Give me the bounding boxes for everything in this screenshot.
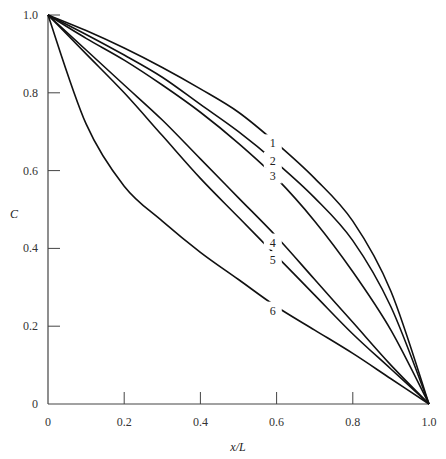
axes: 00.20.40.60.81.000.20.40.60.81.0 (23, 8, 437, 429)
y-tick-label: 1.0 (23, 8, 38, 22)
x-tick-label: 0.6 (269, 415, 284, 429)
y-tick-label: 0.4 (23, 241, 38, 255)
y-tick-label: 0 (32, 397, 38, 411)
curve-label-2: 2 (270, 154, 276, 168)
x-tick-label: 0.2 (117, 415, 132, 429)
x-tick-label: 0.4 (193, 415, 208, 429)
curve-label-1: 1 (270, 136, 276, 150)
curve-5 (48, 15, 429, 404)
x-tick-label: 1.0 (422, 415, 437, 429)
curve-label-6: 6 (270, 304, 276, 318)
y-tick-label: 0.6 (23, 164, 38, 178)
y-tick-label: 0.8 (23, 86, 38, 100)
curve-label-5: 5 (270, 253, 276, 267)
x-tick-label: 0.8 (345, 415, 360, 429)
x-tick-label: 0 (45, 415, 51, 429)
chart: 00.20.40.60.81.000.20.40.60.81.0 123456 … (0, 0, 446, 459)
curve-label-4: 4 (270, 236, 276, 250)
y-axis-label: C (10, 207, 19, 221)
y-tick-label: 0.2 (23, 319, 38, 333)
curves (48, 15, 429, 404)
x-axis-label: x/L (229, 440, 246, 454)
curve-label-3: 3 (270, 169, 276, 183)
